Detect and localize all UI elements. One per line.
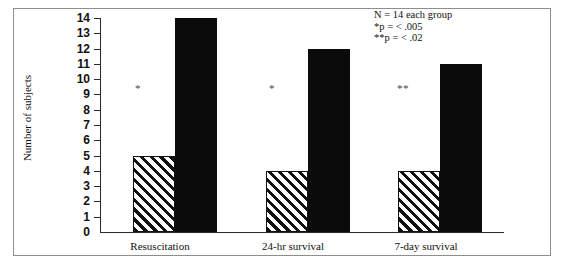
annotation-sample-size: N = 14 each group <box>374 9 452 21</box>
y-tick-label: 9 <box>60 88 90 100</box>
bar-hatched-2 <box>398 171 440 232</box>
y-tick-label: 3 <box>60 180 90 192</box>
y-tick-mark <box>94 140 100 141</box>
significance-marker-0: * <box>128 82 148 94</box>
significance-marker-2: ** <box>392 82 414 94</box>
x-category-label-1: 24-hr survival <box>233 240 353 252</box>
x-category-label-0: Resuscitation <box>100 240 220 252</box>
annotation-p-value-double: **p = < .02 <box>374 32 452 44</box>
y-tick-label: 7 <box>60 119 90 131</box>
y-tick-label-wrap: 7 <box>60 119 90 131</box>
y-tick-mark <box>94 125 100 126</box>
x-category-label-2: 7-day survival <box>366 240 486 252</box>
y-tick-label-wrap: 8 <box>60 104 90 116</box>
y-tick-label: 2 <box>60 195 90 207</box>
plot-area: Number of subjects 01234567891011121314 … <box>0 0 564 272</box>
x-axis-line <box>100 232 504 233</box>
y-tick-label-wrap: 0 <box>60 226 90 238</box>
y-tick-label-wrap: 1 <box>60 211 90 223</box>
y-tick-label: 1 <box>60 211 90 223</box>
y-tick-label: 10 <box>60 73 90 85</box>
y-tick-mark <box>94 64 100 65</box>
y-tick-label-wrap: 12 <box>60 43 90 55</box>
y-tick-mark <box>94 186 100 187</box>
bar-hatched-0 <box>133 156 175 232</box>
y-axis-line <box>100 18 101 232</box>
annotation-p-value-single: *p = < .005 <box>374 21 452 33</box>
bar-solid-1 <box>308 49 350 232</box>
y-tick-label-wrap: 10 <box>60 73 90 85</box>
y-tick-mark <box>94 156 100 157</box>
y-axis-title: Number of subjects <box>21 58 33 178</box>
y-tick-label-wrap: 2 <box>60 195 90 207</box>
y-tick-label: 5 <box>60 150 90 162</box>
y-tick-mark <box>94 18 100 19</box>
y-tick-label-wrap: 14 <box>60 12 90 24</box>
y-tick-mark <box>94 110 100 111</box>
bar-hatched-1 <box>266 171 308 232</box>
bar-solid-2 <box>440 64 482 232</box>
y-tick-label: 11 <box>60 58 90 70</box>
y-tick-mark <box>94 79 100 80</box>
bar-solid-0 <box>175 18 217 232</box>
annotation-block: N = 14 each group *p = < .005 **p = < .0… <box>374 9 452 44</box>
y-tick-label: 14 <box>60 12 90 24</box>
y-tick-label-wrap: 5 <box>60 150 90 162</box>
y-tick-label-wrap: 6 <box>60 134 90 146</box>
y-tick-label-wrap: 11 <box>60 58 90 70</box>
y-tick-label-wrap: 13 <box>60 27 90 39</box>
significance-marker-1: * <box>262 82 282 94</box>
y-tick-label: 6 <box>60 134 90 146</box>
y-tick-label: 13 <box>60 27 90 39</box>
y-tick-label: 0 <box>60 226 90 238</box>
y-tick-label: 8 <box>60 104 90 116</box>
y-tick-mark <box>94 171 100 172</box>
y-tick-mark <box>94 49 100 50</box>
chart-figure: Number of subjects 01234567891011121314 … <box>0 0 564 272</box>
y-tick-label: 12 <box>60 43 90 55</box>
y-tick-mark <box>94 217 100 218</box>
y-tick-label-wrap: 3 <box>60 180 90 192</box>
y-tick-label-wrap: 9 <box>60 88 90 100</box>
y-tick-mark <box>94 201 100 202</box>
y-tick-label: 4 <box>60 165 90 177</box>
y-tick-label-wrap: 4 <box>60 165 90 177</box>
y-tick-mark <box>94 33 100 34</box>
y-tick-mark <box>94 94 100 95</box>
